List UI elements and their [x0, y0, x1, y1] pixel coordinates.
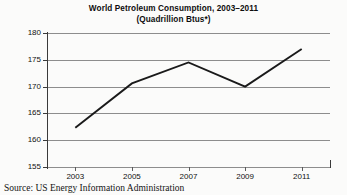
- series-line-layer: [0, 0, 347, 195]
- source-note: Source: US Energy Information Administra…: [4, 183, 184, 193]
- chart-figure: World Petroleum Consumption, 2003–2011 (…: [0, 0, 347, 195]
- series-line-world-petroleum-consumption: [75, 49, 301, 128]
